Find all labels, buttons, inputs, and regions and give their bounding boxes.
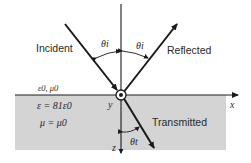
incident-label: Incident	[36, 42, 73, 54]
z-axis-label: z	[111, 142, 116, 153]
y-axis-label: y	[107, 99, 113, 110]
region2-epsilon: ε = 81ε0	[37, 100, 72, 111]
reflected-angle-arc	[122, 51, 148, 58]
x-axis-label: x	[229, 99, 235, 110]
reflected-angle-label: θi	[136, 40, 144, 51]
region2-mu: μ = μ0	[39, 117, 67, 128]
transmitted-angle-label: θt	[130, 136, 138, 147]
reflected-label: Reflected	[167, 44, 212, 56]
diagram-canvas: Incident Reflected Transmitted θi θi θt …	[0, 0, 251, 163]
region1-params: ε0, μ0	[38, 83, 59, 93]
incident-angle-label: θi	[101, 38, 109, 49]
incident-angle-arc	[96, 51, 120, 58]
transmitted-label: Transmitted	[152, 116, 207, 128]
reflected-ray	[123, 24, 177, 93]
incident-ray	[65, 24, 117, 90]
